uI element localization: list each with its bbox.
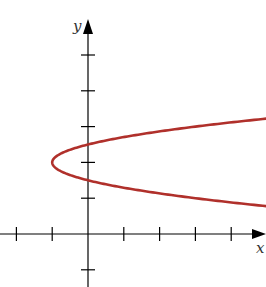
y-axis-arrow-icon — [83, 19, 93, 34]
x-axis-arrow-icon — [252, 229, 266, 239]
y-axis: y — [72, 17, 95, 287]
x-axis-label: x — [256, 239, 265, 257]
y-axis-label: y — [72, 17, 82, 35]
x-axis: x — [0, 227, 266, 257]
chart: x y — [0, 0, 266, 287]
